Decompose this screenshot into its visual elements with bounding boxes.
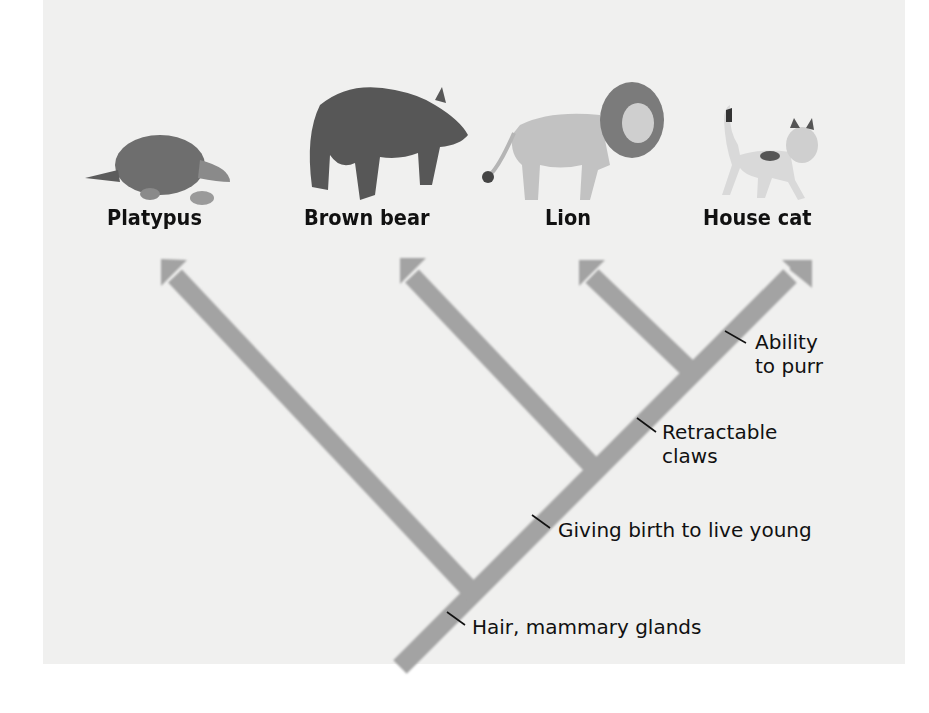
brown-bear-illustration-body [300, 75, 475, 215]
house-cat-illustration [710, 100, 825, 205]
lion-illustration [480, 75, 675, 205]
trait-text: Hair, mammary glands [472, 615, 701, 639]
platypus-branch [175, 276, 474, 594]
lion-branch [592, 276, 693, 373]
trait-label-ability-to-purr: Ability to purr [755, 330, 823, 378]
trait-text-line2: claws [662, 444, 777, 468]
taxon-label-platypus: Platypus [107, 205, 202, 230]
taxon-label-brown-bear: Brown bear [304, 205, 430, 230]
trait-label-hair-mammary-glands: Hair, mammary glands [472, 615, 701, 639]
taxon-label-house-cat: House cat [703, 205, 811, 230]
trait-label-retractable-claws: Retractable claws [662, 420, 777, 468]
trait-text: Giving birth to live young [558, 518, 812, 542]
trait-text-line1: Retractable [662, 420, 777, 444]
brown-bear-illustration [170, 75, 270, 215]
taxon-label-lion: Lion [545, 205, 591, 230]
trait-text-line1: Ability [755, 330, 823, 354]
trait-label-live-young: Giving birth to live young [558, 518, 812, 542]
trait-text-line2: to purr [755, 354, 823, 378]
brown-bear-branch [412, 276, 597, 471]
